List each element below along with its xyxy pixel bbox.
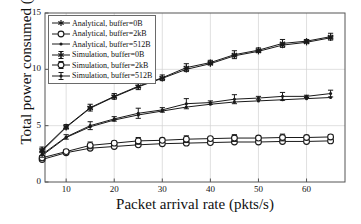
legend-label: Simulation, buffer=2kB	[71, 61, 148, 70]
x-tick-label: 60	[292, 184, 322, 194]
legend-item: Simulation, buffer=0B	[51, 50, 152, 61]
chart-legend: Analytical, buffer=0BAnalytical, buffer=…	[48, 15, 156, 84]
legend-label: Analytical, buffer=0B	[71, 19, 143, 28]
series-simulation-buffer-2kb	[39, 134, 333, 161]
legend-marker-asterisk-icon	[51, 18, 71, 28]
legend-marker-circle-open-icon	[51, 29, 71, 39]
x-tick-label: 40	[195, 184, 225, 194]
legend-item: Simulation, buffer=512B	[51, 71, 152, 82]
x-tick-label: 50	[243, 184, 273, 194]
legend-item: Analytical, buffer=512B	[51, 39, 152, 50]
x-tick-label: 10	[51, 184, 81, 194]
figure: Total power consumed (mW) Packet arrival…	[0, 0, 361, 224]
legend-label: Simulation, buffer=0B	[71, 50, 144, 59]
legend-item: Simulation, buffer=2kB	[51, 60, 152, 71]
legend-label: Analytical, buffer=512B	[71, 40, 151, 49]
x-tick-label: 20	[99, 184, 129, 194]
y-tick-label: 0	[15, 176, 41, 186]
legend-label: Simulation, buffer=512B	[71, 71, 152, 80]
y-tick-label: 10	[15, 63, 41, 73]
y-tick-label: 15	[15, 7, 41, 17]
x-tick-label: 30	[147, 184, 177, 194]
y-tick-label: 5	[15, 120, 41, 130]
legend-marker-asterisk-err-icon	[51, 50, 71, 60]
legend-marker-dot-err-icon	[51, 71, 71, 81]
x-axis-label: Packet arrival rate (pkts/s)	[45, 196, 345, 213]
legend-item: Analytical, buffer=0B	[51, 18, 152, 29]
legend-label: Analytical, buffer=2kB	[71, 29, 147, 38]
legend-item: Analytical, buffer=2kB	[51, 29, 152, 40]
legend-marker-dot-icon	[51, 39, 71, 49]
legend-marker-circle-err-icon	[51, 60, 71, 70]
